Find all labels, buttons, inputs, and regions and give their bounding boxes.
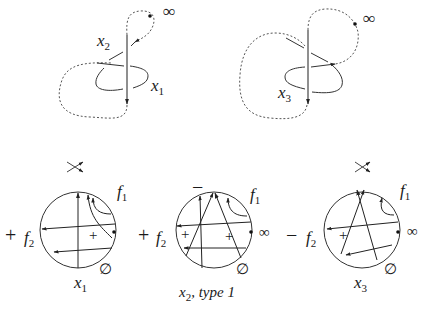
basepoint-dot [396,230,400,234]
label-f2: f2 [24,228,34,249]
label-f1: f1 [400,181,410,202]
knot-invariant-figure: ∞ x2 x1 ∞ x3 + + f1 f2 [0,0,434,312]
sign-plus: + [5,224,16,246]
basepoint-dot [148,14,152,18]
caption-x2-type1: x2, type 1 [178,284,235,303]
chord-diagram-term-1: + + f1 f2 ∅ x1 [5,162,127,294]
basepoint-dot [112,230,116,234]
label-x2: x2 [96,31,110,52]
label-x3: x3 [277,83,292,104]
empty-set-label: ∅ [384,261,397,277]
label-x1: x1 [150,76,164,97]
knot-diagram-left: ∞ x2 x1 [59,2,175,118]
infinity-label: ∞ [363,9,375,28]
label-f1: f1 [250,185,260,206]
label-f1: f1 [117,182,127,203]
infinity-label: ∞ [163,2,175,21]
chord-diagram-term-2: + − + + f1 f2 ∞ ∅ x2, type 1 [138,176,270,303]
crossing-icon [355,162,370,172]
inner-sign: + [225,228,233,244]
sign-plus: + [138,224,149,246]
infinity-label: ∞ [407,223,418,239]
empty-set-label: ∅ [236,261,249,277]
crossing-icon [67,162,83,172]
sign-minus: − [286,224,297,246]
chord-diagram-term-3: − + f1 f2 ∞ ∅ x3 [286,162,418,294]
inner-sign: + [181,226,189,242]
top-sign-minus: − [192,176,203,198]
inner-sign: + [89,227,97,243]
label-f2: f2 [306,228,316,249]
basepoint-dot [353,22,357,26]
label-f2: f2 [156,228,166,249]
inner-sign: + [339,227,347,243]
basepoint-dot [249,230,253,234]
caption-x1: x1 [73,273,87,294]
infinity-label: ∞ [259,224,270,240]
knot-diagram-right: ∞ x3 [240,9,375,119]
empty-set-label: ∅ [99,261,112,277]
caption-x3: x3 [353,273,368,294]
